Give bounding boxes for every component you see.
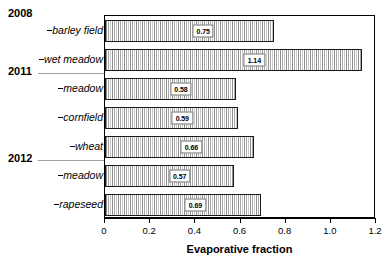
- bar-row: 0.58: [105, 74, 374, 103]
- x-axis-tick: [375, 218, 376, 223]
- bar-row: 1.14: [105, 45, 374, 74]
- x-axis-tick-label: 0: [101, 225, 106, 236]
- category-label-text: wheat: [75, 140, 103, 152]
- bar-row: 0.57: [105, 161, 374, 190]
- x-axis-tick-label: 1.0: [323, 225, 336, 236]
- bar-wet-meadow: [105, 49, 362, 71]
- category-label-meadow-2012: meadow: [63, 160, 103, 189]
- category-label-cornfield: cornfield: [63, 102, 103, 131]
- x-axis: 00.20.40.60.81.01.2: [104, 218, 375, 219]
- x-axis-tick: [240, 218, 241, 223]
- category-label-wet-meadow: wet meadow: [44, 44, 103, 73]
- x-axis-tick: [285, 218, 286, 223]
- axis-tick: [54, 204, 59, 205]
- bar-row: 0.75: [105, 16, 374, 45]
- x-axis-tick: [194, 218, 195, 223]
- category-label-text: meadow: [63, 82, 103, 94]
- category-label-text: barley field: [52, 24, 103, 36]
- year-group-label-2011: 2011: [8, 65, 32, 77]
- evaporative-fraction-bar-chart: 2008 2011 2012 barley field wet meadow m…: [0, 0, 389, 268]
- bar-value-label: 0.75: [193, 24, 214, 37]
- bar-value-label: 0.59: [172, 111, 193, 124]
- bar-barley-field: [105, 20, 274, 42]
- bar-row: 0.59: [105, 103, 374, 132]
- x-axis-tick-label: 0.4: [188, 225, 201, 236]
- category-label-rapeseed: rapeseed: [59, 189, 103, 218]
- bar-value-label: 0.66: [181, 140, 202, 153]
- plot-area: 0.75 1.14 0.58 0.59 0.66 0.57 0.69: [104, 15, 375, 218]
- axis-tick: [39, 59, 44, 60]
- bar-value-label: 1.14: [244, 53, 265, 66]
- bar-wheat: [105, 136, 254, 158]
- axis-tick: [47, 30, 52, 31]
- category-label-barley-field: barley field: [52, 15, 103, 44]
- bar-row: 0.66: [105, 132, 374, 161]
- category-label-text: wet meadow: [44, 53, 103, 65]
- bar-value-label: 0.57: [169, 169, 190, 182]
- category-label-text: rapeseed: [59, 198, 103, 210]
- bar-rapeseed: [105, 194, 261, 216]
- category-label-wheat: wheat: [75, 131, 103, 160]
- axis-tick: [70, 146, 75, 147]
- axis-tick: [58, 88, 63, 89]
- category-label-meadow-2011: meadow: [63, 73, 103, 102]
- x-axis-tick-label: 1.2: [368, 225, 381, 236]
- x-axis-tick-label: 0.2: [143, 225, 156, 236]
- axis-tick: [58, 175, 63, 176]
- x-axis-tick: [149, 218, 150, 223]
- bar-row: 0.69: [105, 190, 374, 219]
- x-axis-tick-label: 0.6: [233, 225, 246, 236]
- x-axis-title: Evaporative fraction: [104, 243, 375, 255]
- category-label-text: meadow: [63, 169, 103, 181]
- year-group-label-2008: 2008: [8, 7, 32, 19]
- x-axis-tick-label: 0.8: [278, 225, 291, 236]
- bar-value-label: 0.58: [170, 82, 191, 95]
- axis-tick: [58, 117, 63, 118]
- x-axis-tick: [104, 218, 105, 223]
- bar-value-label: 0.69: [185, 198, 206, 211]
- x-axis-tick: [330, 218, 331, 223]
- category-label-text: cornfield: [63, 111, 103, 123]
- year-group-label-2012: 2012: [8, 152, 32, 164]
